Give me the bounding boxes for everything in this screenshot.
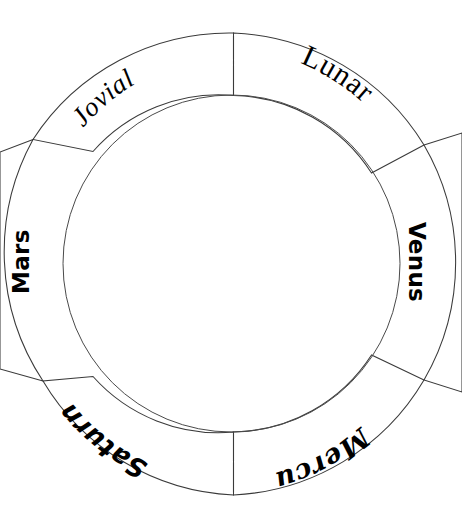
segment-label-venus: Venus [405, 222, 428, 302]
wheel-diagram-canvas: Jovial Lunar Mercury Saturn [0, 0, 462, 530]
segment-jovial-outline [33, 33, 234, 152]
segment-jovial[interactable] [33, 33, 234, 152]
segment-label-lunar: Lunar [297, 38, 381, 107]
segment-label-mars: Mars [10, 229, 33, 294]
wheel-diagram: Jovial Lunar Mercury Saturn Mars Venus [0, 0, 462, 530]
